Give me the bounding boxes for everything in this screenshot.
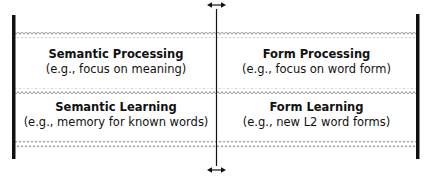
wavy-divider-top bbox=[15, 32, 416, 38]
cell-title: Semantic Processing bbox=[16, 47, 216, 62]
left-boundary-bar bbox=[12, 15, 16, 159]
cell-title: Form Processing bbox=[217, 47, 416, 62]
double-arrow-top-icon bbox=[207, 2, 226, 7]
cell-form-learning: Form Learning (e.g., new L2 word forms) bbox=[217, 100, 416, 130]
cell-title: Semantic Learning bbox=[16, 100, 216, 115]
diagram-lines bbox=[0, 0, 429, 176]
cell-subtitle: (e.g., memory for known words) bbox=[16, 115, 216, 130]
cell-form-processing: Form Processing (e.g., focus on word for… bbox=[217, 47, 416, 77]
cell-subtitle: (e.g., new L2 word forms) bbox=[217, 115, 416, 130]
cell-semantic-processing: Semantic Processing (e.g., focus on mean… bbox=[16, 47, 216, 77]
cell-subtitle: (e.g., focus on word form) bbox=[217, 62, 416, 77]
cell-subtitle: (e.g., focus on meaning) bbox=[16, 62, 216, 77]
double-arrow-bottom-icon bbox=[207, 167, 226, 172]
right-boundary-bar bbox=[416, 14, 420, 159]
cell-semantic-learning: Semantic Learning (e.g., memory for know… bbox=[16, 100, 216, 130]
wavy-divider-middle bbox=[15, 88, 416, 94]
cell-title: Form Learning bbox=[217, 100, 416, 115]
wavy-divider-bottom bbox=[15, 141, 416, 147]
